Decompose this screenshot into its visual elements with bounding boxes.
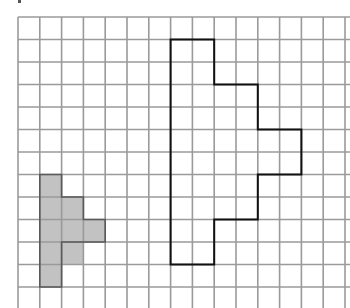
shaded-t-shape — [40, 175, 105, 288]
shaded-cell — [40, 242, 62, 265]
shaded-cell — [62, 197, 84, 220]
shaded-cell — [62, 220, 84, 243]
shaded-cell — [40, 175, 62, 198]
shaded-cell — [40, 197, 62, 220]
shaded-cell — [62, 242, 84, 265]
shaded-cell — [40, 265, 62, 288]
shaded-cell — [40, 220, 62, 243]
clipped-text-fragment — [18, 0, 21, 3]
shaded-cell — [83, 220, 105, 243]
grid-diagram — [0, 0, 350, 308]
